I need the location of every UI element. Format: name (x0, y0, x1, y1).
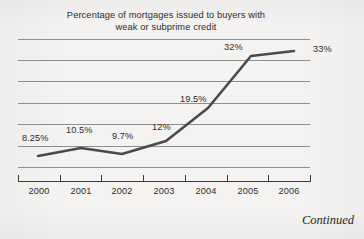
x-axis-label-2005: 2005 (227, 186, 269, 196)
x-axis-tick-2 (101, 175, 102, 182)
x-axis-label-2002: 2002 (101, 186, 143, 196)
data-label-2001: 10.5% (66, 125, 93, 135)
x-axis-tick-6 (268, 175, 269, 182)
x-axis-line (18, 181, 310, 182)
data-label-2003: 12% (152, 122, 171, 132)
x-axis-label-2003: 2003 (143, 186, 185, 196)
x-axis-tick-4 (185, 175, 186, 182)
data-label-2000: 8.25% (22, 133, 49, 143)
x-axis-tick-0 (18, 175, 19, 182)
x-axis-label-2006: 2006 (268, 186, 310, 196)
x-axis-label-2004: 2004 (185, 186, 227, 196)
x-axis-tick-3 (143, 175, 144, 182)
data-label-2002: 9.7% (112, 131, 133, 141)
plot-area: 8.25%10.5%9.7%12%19.5%32%33% 20002001200… (0, 0, 364, 239)
continued-note: Continued (302, 213, 354, 228)
x-axis-tick-1 (60, 175, 61, 182)
x-axis-tick-7 (310, 175, 311, 182)
series-line-chart (0, 0, 364, 239)
subprime-mortgage-trend-line (38, 51, 294, 156)
data-label-2006: 33% (313, 44, 332, 54)
x-axis-label-2000: 2000 (18, 186, 60, 196)
figure-page: Percentage of mortgages issued to buyers… (0, 0, 364, 239)
data-label-2005: 32% (224, 42, 243, 52)
x-axis-tick-5 (227, 175, 228, 182)
x-axis-label-2001: 2001 (60, 186, 102, 196)
data-label-2004: 19.5% (180, 94, 207, 104)
